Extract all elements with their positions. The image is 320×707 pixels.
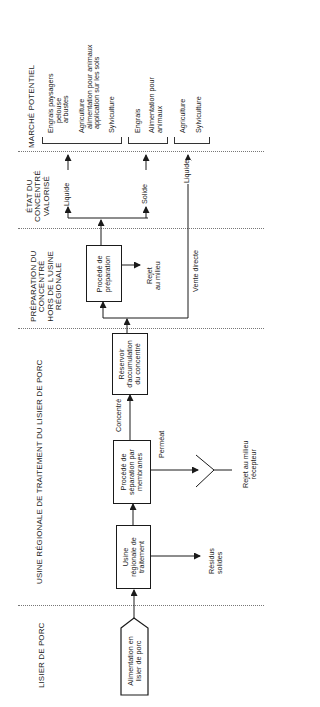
liquide-label-1: Liquide	[63, 183, 71, 206]
market-engrais-paysagers: Engrais paysagers pelouse arbustes	[47, 73, 70, 133]
market-line: animaux	[156, 77, 164, 133]
usine-label: Usine régionale de traitement	[122, 537, 146, 577]
market-bracket-2	[128, 137, 168, 144]
market-sylviculture-1: Sylviculture	[108, 96, 116, 133]
market-bracket-1	[42, 137, 122, 144]
vente-directe-label: Vente directe	[192, 250, 200, 292]
alimentation-label: Alimentation en lisier de porc	[127, 636, 143, 686]
market-line: arbustes	[62, 73, 70, 133]
market-engrais: Engrais	[134, 109, 142, 133]
reservoir-concentre-box: Réservoir d'accumulation du concentré	[112, 333, 148, 395]
rejet-milieu-label: Rejet au milieu	[146, 261, 161, 290]
market-bracket-3	[174, 137, 210, 144]
usine-traitement-box: Usine régionale de traitement	[116, 525, 151, 589]
alimentation-lisier-box: Alimentation en lisier de porc	[121, 626, 148, 695]
preparation-box: Procédé de préparation	[86, 245, 122, 302]
preparation-label: Procédé de préparation	[96, 255, 112, 292]
residus-solides-label: Résidus solides	[208, 548, 223, 574]
market-alimentation-animaux: Alimentation pour animaux	[148, 77, 163, 133]
liquide-label-2: Liquide	[183, 160, 191, 183]
box-line: lisier de porc	[135, 636, 143, 686]
label-line: solides	[216, 548, 224, 574]
box-line: du concentré	[134, 340, 142, 388]
box-line: traitement	[137, 537, 145, 577]
market-agriculture-1: Agriculture alimentation pour animaux ap…	[78, 45, 101, 133]
permeat-label: Perméat	[158, 431, 166, 458]
rejet-recepteur-label: Rejet au milieu récepteur	[242, 440, 257, 488]
solide-label: Solide	[141, 184, 149, 204]
concentre-label: Concentré	[115, 399, 123, 432]
box-line: préparation	[104, 255, 112, 292]
market-agriculture-2: Agriculture	[179, 99, 187, 133]
market-line: application sur les sols	[93, 45, 101, 133]
label-line: récepteur	[250, 440, 258, 488]
label-line: au milieu	[154, 261, 162, 290]
reservoir-label: Réservoir d'accumulation du concentré	[118, 340, 142, 388]
separation-label: Procédé de séparation par membranes	[120, 449, 144, 495]
separation-membranes-box: Procédé de séparation par membranes	[113, 440, 151, 504]
market-sylviculture-2: Sylviculture	[195, 96, 203, 133]
box-line: membranes	[136, 449, 144, 495]
